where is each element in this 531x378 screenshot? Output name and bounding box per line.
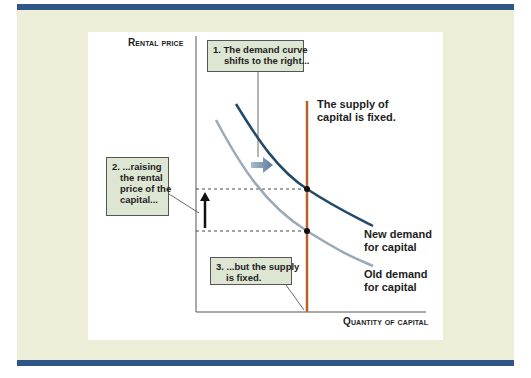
y-axis-label: Rental price bbox=[128, 37, 183, 48]
callout-3-line-2: is fixed. bbox=[216, 272, 286, 283]
callout-3: 3. ...but the supply is fixed. bbox=[210, 257, 292, 285]
price-rise-arrowhead bbox=[200, 192, 210, 201]
supply-label: The supply of capital is fixed. bbox=[317, 98, 396, 124]
callout-3-leader bbox=[286, 285, 304, 310]
callout-2-line-3: price of the bbox=[112, 183, 163, 194]
old-demand-label-line-2: for capital bbox=[364, 281, 428, 294]
callout-2-line-1: 2. ...raising bbox=[112, 161, 163, 172]
new-equilibrium-point bbox=[304, 186, 310, 192]
old-equilibrium-point bbox=[304, 228, 310, 234]
supply-label-line-2: capital is fixed. bbox=[317, 111, 396, 124]
shift-right-arrow-icon bbox=[251, 157, 273, 173]
callout-1: 1. The demand curve shifts to the right.… bbox=[207, 40, 304, 72]
old-demand-label-line-1: Old demand bbox=[364, 268, 428, 281]
callout-1-line-2: shifts to the right... bbox=[213, 55, 298, 66]
old-demand-label: Old demand for capital bbox=[364, 268, 428, 294]
x-axis-label-text: Quantity of capital bbox=[343, 316, 428, 327]
new-demand-label-line-1: New demand bbox=[364, 228, 432, 241]
callout-2-line-4: capital... bbox=[112, 194, 163, 205]
callout-2: 2. ...raising the rental price of the ca… bbox=[106, 157, 169, 216]
old-demand-curve bbox=[216, 120, 373, 266]
callout-3-line-1: 3. ...but the supply bbox=[216, 261, 286, 272]
callout-1-line-1: 1. The demand curve bbox=[213, 44, 298, 55]
x-axis-label: Quantity of capital bbox=[343, 316, 428, 327]
y-axis-label-text: Rental price bbox=[128, 37, 183, 48]
callout-2-line-2: the rental bbox=[112, 172, 163, 183]
new-demand-label: New demand for capital bbox=[364, 228, 432, 254]
new-demand-label-line-2: for capital bbox=[364, 241, 432, 254]
supply-label-line-1: The supply of bbox=[317, 98, 396, 111]
callout-2-leader bbox=[169, 194, 199, 213]
